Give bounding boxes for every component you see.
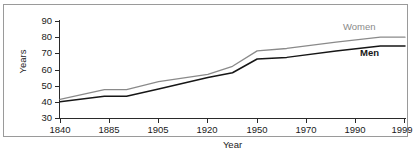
- y-axis-title: Years: [17, 32, 28, 92]
- series-label-women: Women: [343, 21, 376, 32]
- y-tick-label-50: 50: [30, 81, 52, 91]
- y-tick-label-70: 70: [30, 48, 52, 58]
- x-tick-mark: [158, 119, 159, 123]
- x-tick-label-1990: 1990: [335, 124, 375, 135]
- series-line-men: [60, 46, 405, 102]
- x-tick-label-1950: 1950: [237, 124, 277, 135]
- x-tick-mark: [257, 119, 258, 123]
- x-tick-mark: [306, 119, 307, 123]
- y-tick-label-40: 40: [30, 97, 52, 107]
- x-tick-mark: [355, 119, 356, 123]
- y-tick-label-80: 80: [30, 32, 52, 42]
- x-tick-label-1905: 1905: [138, 124, 178, 135]
- line-chart-figure: 90 80 70 60 50 40 30 1840 1885 1905 1920…: [0, 0, 419, 158]
- x-tick-label-1885: 1885: [89, 124, 129, 135]
- x-tick-label-1840: 1840: [40, 124, 80, 135]
- x-tick-label-1999: 1999: [382, 124, 419, 135]
- x-tick-label-1920: 1920: [187, 124, 227, 135]
- x-tick-label-1970: 1970: [286, 124, 326, 135]
- series-label-men: Men: [360, 47, 379, 58]
- x-tick-mark: [60, 119, 61, 123]
- series-line-women: [60, 37, 405, 99]
- y-tick-label-90: 90: [30, 16, 52, 26]
- y-tick-label-60: 60: [30, 65, 52, 75]
- x-tick-mark: [207, 119, 208, 123]
- series-svg: [60, 21, 405, 118]
- y-tick-label-30: 30: [30, 113, 52, 123]
- x-tick-mark: [109, 119, 110, 123]
- plot-area: [60, 21, 405, 118]
- x-tick-mark: [404, 119, 405, 123]
- x-axis-title: Year: [60, 139, 405, 150]
- x-axis-line: [59, 118, 406, 119]
